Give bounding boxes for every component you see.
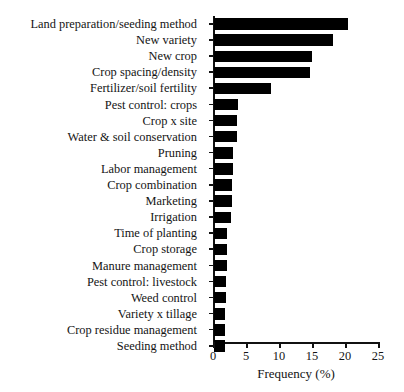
y-axis-tick xyxy=(209,71,213,73)
y-axis-tick xyxy=(209,87,213,89)
x-axis-tick-label: 15 xyxy=(297,349,327,364)
x-axis-tick-label: 5 xyxy=(231,349,261,364)
y-axis-tick xyxy=(209,184,213,186)
category-label: Irrigation xyxy=(0,209,205,225)
bar xyxy=(214,67,310,78)
y-axis-tick xyxy=(209,23,213,25)
category-label: New variety xyxy=(0,32,205,48)
bar-row xyxy=(213,177,404,193)
y-axis-tick xyxy=(209,168,213,170)
y-axis-tick xyxy=(209,297,213,299)
x-axis-title: Frequency (%) xyxy=(213,366,379,382)
bar-row xyxy=(213,290,404,306)
bar xyxy=(214,276,226,287)
x-axis-tick xyxy=(246,342,248,348)
y-axis-tick xyxy=(209,39,213,41)
bar xyxy=(214,244,227,255)
y-axis-tick xyxy=(209,120,213,122)
bar xyxy=(214,324,225,335)
bar xyxy=(214,292,226,303)
x-axis-tick xyxy=(345,342,347,348)
bar xyxy=(214,308,225,319)
bar xyxy=(214,163,233,174)
bar xyxy=(214,51,312,62)
category-label: Pruning xyxy=(0,145,205,161)
bar-row xyxy=(213,241,404,257)
x-axis-tick-label: 10 xyxy=(264,349,294,364)
category-label: Crop spacing/density xyxy=(0,64,205,80)
x-axis-tick-label: 0 xyxy=(198,349,228,364)
bar-row xyxy=(213,274,404,290)
y-axis-tick xyxy=(209,329,213,331)
category-label: Pest control: crops xyxy=(0,97,205,113)
x-axis-tick-label: 25 xyxy=(363,349,393,364)
bar-row xyxy=(213,161,404,177)
category-label: Crop storage xyxy=(0,241,205,257)
category-label: Crop residue management xyxy=(0,322,205,338)
bar-row xyxy=(213,193,404,209)
y-axis-tick xyxy=(209,313,213,315)
bar xyxy=(214,195,232,206)
category-label: Seeding method xyxy=(0,338,205,354)
category-label: Labor management xyxy=(0,161,205,177)
category-label: Weed control xyxy=(0,290,205,306)
bar-row xyxy=(213,48,404,64)
y-axis-tick xyxy=(209,200,213,202)
bar-row xyxy=(213,97,404,113)
category-label: Crop x site xyxy=(0,113,205,129)
bar xyxy=(214,131,237,142)
bar-row xyxy=(213,64,404,80)
y-axis-tick xyxy=(209,265,213,267)
category-label: Land preparation/seeding method xyxy=(0,16,205,32)
category-label: Pest control: livestock xyxy=(0,274,205,290)
bar xyxy=(214,115,237,126)
y-axis-tick xyxy=(209,136,213,138)
x-axis-tick xyxy=(378,342,380,348)
bar-row xyxy=(213,209,404,225)
bar xyxy=(214,212,231,223)
bar xyxy=(214,83,271,94)
category-label: Water & soil conservation xyxy=(0,129,205,145)
bar xyxy=(214,260,227,271)
frequency-bar-chart: Land preparation/seeding methodNew varie… xyxy=(0,0,404,392)
category-label: Marketing xyxy=(0,193,205,209)
y-axis-tick xyxy=(209,55,213,57)
bar xyxy=(214,18,348,29)
category-label: New crop xyxy=(0,48,205,64)
bar xyxy=(214,34,333,45)
bar-row xyxy=(213,113,404,129)
y-axis-tick xyxy=(209,104,213,106)
bar xyxy=(214,99,238,110)
category-label: Manure management xyxy=(0,258,205,274)
bar-row xyxy=(213,322,404,338)
bar-row xyxy=(213,258,404,274)
x-axis-tick xyxy=(279,342,281,348)
category-label: Crop combination xyxy=(0,177,205,193)
bar-row xyxy=(213,129,404,145)
x-axis-tick xyxy=(312,342,314,348)
bar-row xyxy=(213,225,404,241)
bar-row xyxy=(213,80,404,96)
bar-row xyxy=(213,32,404,48)
y-axis-tick xyxy=(209,281,213,283)
bar xyxy=(214,147,233,158)
bar-row xyxy=(213,16,404,32)
bar xyxy=(214,179,232,190)
y-axis-tick xyxy=(209,152,213,154)
x-axis-tick-label: 20 xyxy=(330,349,360,364)
y-axis-tick xyxy=(209,216,213,218)
bar-row xyxy=(213,145,404,161)
bar xyxy=(214,228,227,239)
category-label: Fertilizer/soil fertility xyxy=(0,80,205,96)
category-label: Time of planting xyxy=(0,225,205,241)
bar-row xyxy=(213,306,404,322)
x-axis-tick xyxy=(213,342,215,348)
category-label: Variety x tillage xyxy=(0,306,205,322)
y-axis-tick xyxy=(209,248,213,250)
y-axis-tick xyxy=(209,232,213,234)
